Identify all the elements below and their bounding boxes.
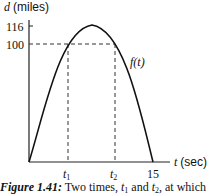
tick-label-116: 116 — [6, 21, 24, 33]
x-axis-label: t (sec) — [174, 156, 207, 168]
curve-label: f(t) — [130, 56, 145, 68]
figure-caption: Figure 1.41: Two times, t1 and t2, at wh… — [0, 180, 206, 195]
tick-label-15: 15 — [147, 168, 159, 180]
curve-f — [29, 25, 153, 162]
y-axis-label: d (miles) — [4, 1, 49, 13]
tick-label-100: 100 — [6, 39, 24, 51]
